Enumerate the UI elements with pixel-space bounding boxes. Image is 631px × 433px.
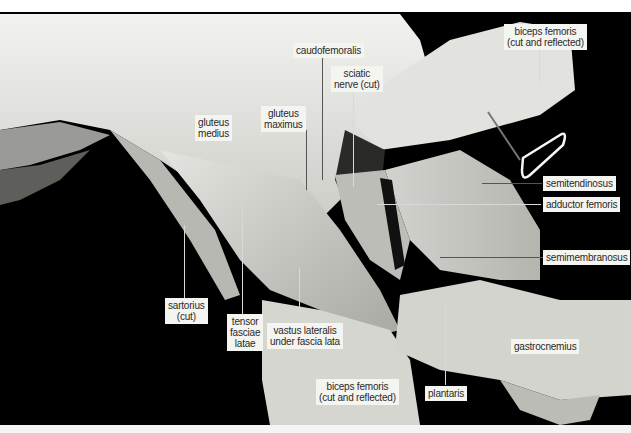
label-sciatic-nerve: sciatic nerve (cut) <box>331 66 383 92</box>
leader-plantaris <box>445 305 446 385</box>
label-biceps-femoris-top: biceps femoris (cut and reflected) <box>504 24 587 50</box>
label-adductor-femoris: adductor femoris <box>543 197 620 212</box>
leader-caudofemoralis <box>322 55 323 180</box>
label-sartorius: sartorius (cut) <box>165 298 208 324</box>
label-biceps-femoris-bottom: biceps femoris (cut and reflected) <box>316 379 399 405</box>
leader-vastus-lateralis <box>299 268 300 315</box>
leader-tensor-fasciae-latae <box>242 205 243 315</box>
dissection-photo <box>0 0 631 433</box>
label-semimembranosus: semimembranosus <box>543 250 630 265</box>
leader-gluteus-maximus <box>306 130 307 190</box>
label-plantaris: plantaris <box>425 386 467 401</box>
leader-semimembranosus <box>440 257 543 258</box>
leader-semitendinosus <box>482 183 542 184</box>
label-gastrocnemius: gastrocnemius <box>511 339 579 354</box>
leader-sartorius <box>184 225 185 300</box>
label-gluteus-medius: gluteus medius <box>195 115 232 141</box>
leader-adductor-femoris <box>377 204 541 205</box>
label-gluteus-maximus: gluteus maximus <box>261 106 306 132</box>
label-vastus-lateralis: vastus lateralis under fascia lata <box>267 323 343 349</box>
label-caudofemoralis: caudofemoralis <box>293 43 364 58</box>
leader-biceps-femoris-top <box>539 50 540 82</box>
label-semitendinosus: semitendinosus <box>543 176 616 191</box>
label-tensor-fasciae-latae: tensor fasciae latae <box>227 314 263 351</box>
anatomy-figure: caudofemoralis sciatic nerve (cut) glute… <box>0 0 631 433</box>
leader-sciatic-nerve <box>353 92 354 187</box>
